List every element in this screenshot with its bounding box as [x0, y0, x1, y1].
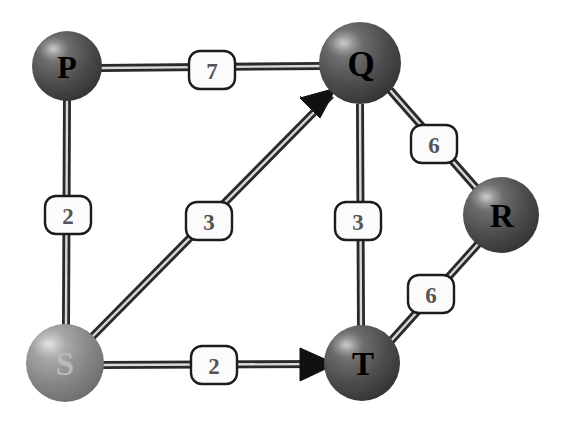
- graph-svg: P Q R S: [0, 0, 573, 429]
- weight-label-s-q[interactable]: 3: [186, 202, 232, 240]
- weight-label-q-r[interactable]: 6: [411, 125, 457, 163]
- weight-label-p-q[interactable]: 7: [189, 51, 235, 89]
- node-p[interactable]: P: [32, 31, 102, 101]
- weight-label-t-r[interactable]: 6: [408, 275, 454, 313]
- edges-layer: [66, 66, 479, 381]
- graph-diagram-canvas: P Q R S: [0, 0, 573, 429]
- node-s[interactable]: S: [26, 324, 104, 402]
- weight-label-p-s[interactable]: 2: [45, 196, 91, 234]
- node-t[interactable]: T: [324, 325, 400, 401]
- nodes-layer: P Q R S: [26, 22, 539, 402]
- weight-label-q-t[interactable]: 3: [335, 202, 381, 240]
- node-q[interactable]: Q: [319, 22, 401, 104]
- node-r[interactable]: R: [463, 177, 539, 253]
- weight-label-s-t[interactable]: 2: [191, 346, 237, 384]
